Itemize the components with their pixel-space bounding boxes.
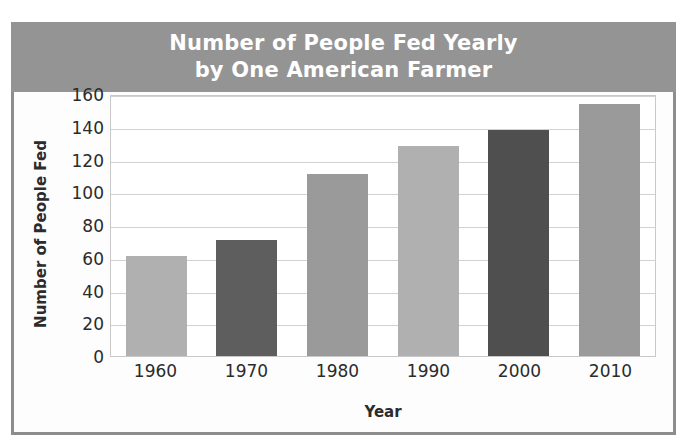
- x-axis-tick-2010: 2010: [565, 361, 656, 381]
- bar-2000[interactable]: [488, 130, 549, 356]
- plot-area: [110, 95, 656, 357]
- y-axis-tick-160: 160: [72, 85, 104, 105]
- bar-slot-1990: [383, 96, 473, 356]
- y-axis-tick-120: 120: [72, 151, 104, 171]
- bar-1970[interactable]: [216, 240, 277, 356]
- y-axis-tick-100: 100: [72, 183, 104, 203]
- x-axis-tick-labels: 196019701980199020002010: [110, 361, 656, 381]
- y-axis-label: Number of People Fed: [32, 129, 50, 339]
- y-axis-tick-20: 20: [82, 314, 104, 334]
- y-axis-tick-140: 140: [72, 118, 104, 138]
- x-axis-label: Year: [110, 403, 656, 421]
- chart-title-line-1: Number of People Fed Yearly: [169, 30, 518, 57]
- bar-series: [111, 96, 655, 356]
- bar-1960[interactable]: [126, 256, 187, 356]
- y-axis-tick-80: 80: [82, 216, 104, 236]
- y-axis-tick-40: 40: [82, 282, 104, 302]
- y-axis-tick-60: 60: [82, 249, 104, 269]
- x-axis-tick-1960: 1960: [110, 361, 201, 381]
- bar-1990[interactable]: [398, 146, 459, 356]
- bar-slot-1960: [111, 96, 201, 356]
- chart-title-line-2: by One American Farmer: [195, 57, 493, 84]
- bar-slot-1970: [202, 96, 292, 356]
- bar-slot-2010: [564, 96, 654, 356]
- chart-title-banner: Number of People Fed Yearly by One Ameri…: [11, 22, 676, 92]
- bar-slot-1980: [292, 96, 382, 356]
- plot-wrapper: Number of People Fed 1601401201008060402…: [14, 95, 673, 435]
- x-axis-tick-1990: 1990: [383, 361, 474, 381]
- bar-1980[interactable]: [307, 174, 368, 356]
- y-axis-tick-0: 0: [93, 347, 104, 367]
- bar-slot-2000: [474, 96, 564, 356]
- x-axis-tick-1970: 1970: [201, 361, 292, 381]
- chart-figure: Number of People Fed Yearly by One Ameri…: [11, 22, 676, 435]
- x-axis-tick-1980: 1980: [292, 361, 383, 381]
- y-axis-tick-labels: 160140120100806040200: [50, 95, 108, 357]
- x-axis-tick-2000: 2000: [474, 361, 565, 381]
- bar-2010[interactable]: [579, 104, 640, 356]
